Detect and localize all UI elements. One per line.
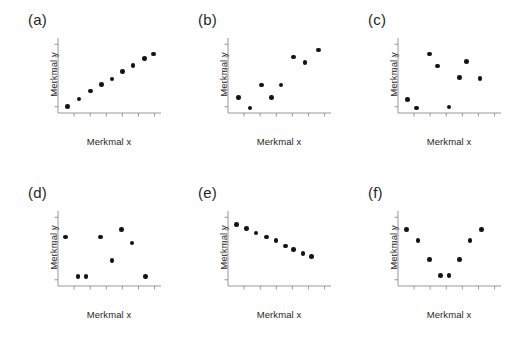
- axes: [397, 38, 501, 114]
- data-point: [416, 238, 421, 243]
- panel-label: (a): [28, 11, 47, 28]
- data-point: [88, 89, 93, 94]
- scatter-panel-e: (e)Merkmal yMerkmal x: [170, 173, 340, 346]
- axes: [57, 38, 161, 114]
- data-point: [98, 235, 103, 240]
- data-point: [110, 258, 115, 263]
- data-point: [447, 273, 452, 278]
- data-point: [142, 56, 147, 61]
- plot-area: Merkmal yMerkmal x: [397, 211, 501, 287]
- axes: [227, 211, 331, 287]
- panel-label: (f): [368, 184, 383, 201]
- data-point: [438, 273, 443, 278]
- data-point: [283, 244, 288, 249]
- data-point: [301, 251, 306, 256]
- data-point: [264, 235, 269, 240]
- data-point: [131, 63, 136, 68]
- data-point: [84, 274, 89, 279]
- data-point: [274, 238, 279, 243]
- y-axis-label: Merkmal y: [218, 35, 229, 115]
- scatter-panel-a: (a)Merkmal yMerkmal x: [0, 0, 170, 173]
- data-point: [427, 52, 432, 57]
- plot-area: Merkmal yMerkmal x: [57, 211, 161, 287]
- x-axis-label: Merkmal x: [397, 309, 501, 320]
- data-point: [269, 95, 274, 100]
- data-point: [404, 227, 409, 232]
- y-axis-label: Merkmal y: [48, 35, 59, 115]
- x-axis-label: Merkmal x: [227, 136, 331, 147]
- data-point: [464, 59, 469, 64]
- x-axis-label: Merkmal x: [57, 136, 161, 147]
- data-point: [77, 97, 82, 102]
- panel-label: (b): [198, 11, 217, 28]
- data-point: [119, 227, 124, 232]
- plot-area: Merkmal yMerkmal x: [227, 38, 331, 114]
- data-point: [479, 227, 484, 232]
- plot-area: Merkmal yMerkmal x: [57, 38, 161, 114]
- x-axis-label: Merkmal x: [397, 136, 501, 147]
- plot-area: Merkmal yMerkmal x: [397, 38, 501, 114]
- scatter-panel-d: (d)Merkmal yMerkmal x: [0, 173, 170, 346]
- panel-label: (c): [368, 11, 386, 28]
- data-point: [244, 226, 249, 231]
- data-point: [303, 60, 308, 65]
- data-point: [143, 274, 148, 279]
- data-point: [291, 247, 296, 252]
- x-axis-label: Merkmal x: [57, 309, 161, 320]
- y-axis-label: Merkmal y: [48, 208, 59, 288]
- data-point: [65, 104, 70, 109]
- data-point: [309, 254, 314, 259]
- x-axis-label: Merkmal x: [227, 309, 331, 320]
- y-axis-label: Merkmal y: [388, 208, 399, 288]
- panel-label: (d): [28, 184, 47, 201]
- scatter-panel-c: (c)Merkmal yMerkmal x: [340, 0, 513, 173]
- plot-area: Merkmal yMerkmal x: [227, 211, 331, 287]
- data-point: [76, 274, 81, 279]
- scatter-panel-b: (b)Merkmal yMerkmal x: [170, 0, 340, 173]
- data-point: [120, 69, 125, 74]
- data-point: [99, 82, 104, 87]
- data-point: [457, 257, 462, 262]
- y-axis-label: Merkmal y: [218, 208, 229, 288]
- data-point: [234, 222, 239, 227]
- data-point: [478, 76, 483, 81]
- data-point: [236, 95, 241, 100]
- data-point: [405, 97, 410, 102]
- panel-label: (e): [198, 184, 217, 201]
- data-point: [457, 75, 462, 80]
- data-point: [259, 83, 264, 88]
- data-point: [291, 55, 296, 60]
- scatterplot-figure-grid: (a)Merkmal yMerkmal x(b)Merkmal yMerkmal…: [0, 0, 513, 346]
- y-axis-label: Merkmal y: [388, 35, 399, 115]
- data-point: [468, 238, 473, 243]
- data-point: [427, 257, 432, 262]
- scatter-panel-f: (f)Merkmal yMerkmal x: [340, 173, 513, 346]
- data-point: [63, 235, 68, 240]
